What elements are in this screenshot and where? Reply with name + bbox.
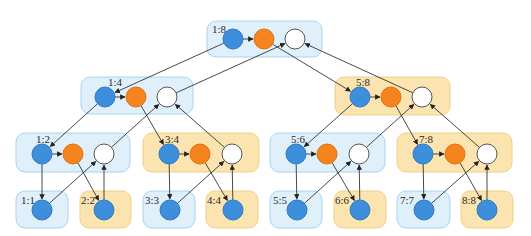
orange-node: [445, 144, 465, 164]
white-node: [94, 144, 114, 164]
orange-node: [317, 144, 337, 164]
blue-node: [286, 144, 306, 164]
blue-node: [95, 87, 115, 107]
edge-arrow: [359, 165, 360, 200]
blue-node: [160, 200, 180, 220]
range-label: 3:3: [145, 194, 160, 206]
white-node: [285, 29, 305, 49]
white-node: [477, 144, 497, 164]
blue-node: [32, 144, 52, 164]
edge-arrow: [232, 165, 233, 200]
range-label: 5:5: [273, 194, 288, 206]
range-label: 1:8: [212, 23, 227, 35]
white-node: [222, 144, 242, 164]
blue-node: [159, 144, 179, 164]
range-label: 5:6: [291, 133, 306, 145]
edge-arrow: [169, 164, 170, 199]
blue-node: [413, 144, 433, 164]
range-label: 3:4: [165, 133, 180, 145]
white-node: [157, 87, 177, 107]
blue-node: [414, 200, 434, 220]
orange-node: [126, 87, 146, 107]
range-label: 1:4: [108, 76, 123, 88]
recursive-tree-diagram: 1:81:45:81:23:45:67:81:12:23:34:45:56:67…: [0, 0, 531, 236]
edge-arrow: [423, 164, 424, 199]
range-label: 4:4: [207, 194, 222, 206]
range-label: 1:2: [36, 133, 50, 145]
blue-node: [477, 200, 497, 220]
white-node: [349, 144, 369, 164]
blue-node: [350, 87, 370, 107]
range-label: 5:8: [356, 76, 371, 88]
diagram-svg: 1:81:45:81:23:45:67:81:12:23:34:45:56:67…: [0, 0, 531, 236]
orange-node: [63, 144, 83, 164]
range-label: 6:6: [335, 194, 350, 206]
orange-node: [254, 29, 274, 49]
blue-node: [350, 200, 370, 220]
blue-node: [94, 200, 114, 220]
range-label: 2:2: [81, 194, 95, 206]
range-label: 7:8: [419, 133, 434, 145]
orange-node: [381, 87, 401, 107]
white-node: [412, 87, 432, 107]
blue-node: [287, 200, 307, 220]
orange-node: [190, 144, 210, 164]
edges: [42, 39, 487, 203]
edge-arrow: [296, 164, 297, 199]
blue-node: [223, 200, 243, 220]
range-label: 7:7: [400, 194, 415, 206]
range-label: 8:8: [462, 194, 477, 206]
range-label: 1:1: [21, 194, 35, 206]
